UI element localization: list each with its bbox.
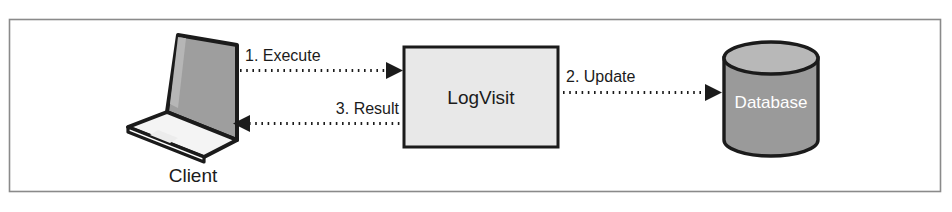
database-node: Database bbox=[724, 42, 818, 156]
update-label: 2. Update bbox=[566, 68, 635, 85]
database-cylinder-top bbox=[724, 42, 818, 74]
diagram-figure: Client LogVisit Database 1. Execute 3. R… bbox=[0, 0, 952, 212]
execute-label: 1. Execute bbox=[245, 47, 321, 64]
logvisit-label: LogVisit bbox=[447, 87, 515, 108]
client-label: Client bbox=[169, 165, 218, 186]
database-label: Database bbox=[735, 93, 808, 112]
diagram-canvas: Client LogVisit Database 1. Execute 3. R… bbox=[0, 0, 952, 212]
result-label: 3. Result bbox=[336, 100, 400, 117]
logvisit-node: LogVisit bbox=[404, 47, 558, 147]
